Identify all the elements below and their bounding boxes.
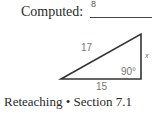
- right-angle-label: 90°: [121, 66, 136, 77]
- footer-caption: Reteaching • Section 7.1: [4, 94, 132, 110]
- hypotenuse-label: 17: [81, 42, 92, 53]
- base-label: 15: [96, 81, 107, 92]
- side-x-label: x: [145, 52, 149, 59]
